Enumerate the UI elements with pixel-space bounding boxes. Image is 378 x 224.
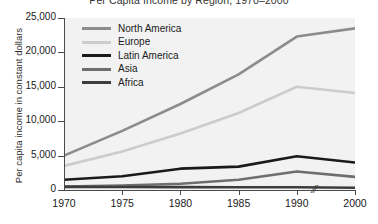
legend-item[interactable]: Africa [82,76,181,90]
legend-swatch-icon [82,81,111,84]
y-tick [58,156,64,157]
legend-item[interactable]: Asia [82,63,181,77]
chart-container: Per Capita Income by Region, 1970–2000 P… [0,0,378,224]
legend-item[interactable]: Latin America [82,49,181,63]
legend-label: Europe [118,37,150,47]
y-tick-label: 10,000 [6,114,56,125]
legend-item[interactable]: North America [82,22,181,36]
y-tick-label: 15,000 [6,80,56,91]
x-tick-label: 2000 [333,197,377,209]
y-tick-label: 0 [6,183,56,194]
y-tick [58,190,64,191]
x-tick [297,190,298,195]
x-tick-label: 1975 [100,197,144,209]
y-tick-label: 20,000 [6,45,56,56]
legend-label: Africa [118,78,144,88]
y-tick-label: 25,000 [6,11,56,22]
series-line [64,87,355,166]
y-tick [58,18,64,19]
x-tick-label: 1990 [275,197,319,209]
y-tick [58,121,64,122]
chart-title: Per Capita Income by Region, 1970–2000 [0,0,378,6]
x-tick [180,190,181,195]
legend-swatch-icon [82,68,111,71]
x-tick-label: 1985 [217,197,261,209]
x-tick [122,190,123,195]
series-line [64,156,355,179]
legend: North AmericaEuropeLatin AmericaAsiaAfri… [82,22,181,90]
y-tick [58,52,64,53]
legend-label: Asia [118,64,137,74]
legend-label: North America [118,24,181,34]
series-line [64,171,355,186]
x-tick-label: 1970 [42,197,86,209]
x-tick [239,190,240,195]
legend-label: Latin America [118,51,179,61]
y-tick-label: 5,000 [6,149,56,160]
legend-swatch-icon [82,54,111,57]
y-axis-title: Per capita income in constant dollars [13,18,24,194]
legend-item[interactable]: Europe [82,36,181,50]
y-axis-spine [64,18,65,191]
legend-swatch-icon [82,27,111,30]
x-tick-label: 1980 [158,197,202,209]
x-tick [355,190,356,195]
legend-swatch-icon [82,41,111,44]
y-tick [58,87,64,88]
